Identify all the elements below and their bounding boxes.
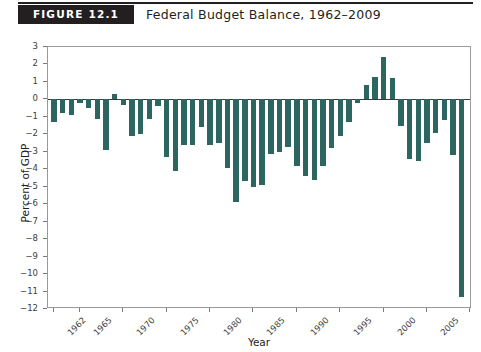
bar bbox=[381, 57, 386, 99]
figure-number-badge: FIGURE 12.1 bbox=[18, 5, 134, 24]
y-tick-label: −11 bbox=[20, 286, 38, 296]
bar bbox=[129, 99, 134, 136]
figure-header: FIGURE 12.1 Federal Budget Balance, 1962… bbox=[0, 0, 481, 30]
bar bbox=[173, 99, 178, 171]
bar bbox=[164, 99, 169, 157]
x-tick-mark bbox=[426, 308, 427, 312]
bar bbox=[355, 99, 360, 102]
x-tick-mark bbox=[383, 308, 384, 312]
y-tick-label: −12 bbox=[20, 303, 38, 313]
bar bbox=[450, 99, 455, 155]
x-tick-mark bbox=[252, 308, 253, 312]
bar bbox=[69, 99, 74, 115]
bar bbox=[138, 99, 143, 134]
bar bbox=[424, 99, 429, 143]
bar bbox=[242, 99, 247, 181]
bar bbox=[95, 99, 100, 118]
bar bbox=[147, 99, 152, 118]
bar-series bbox=[48, 47, 470, 307]
bar bbox=[320, 99, 325, 165]
bar bbox=[303, 99, 308, 176]
bar bbox=[338, 99, 343, 136]
bar bbox=[398, 99, 403, 125]
bar bbox=[346, 99, 351, 122]
x-tick-label: 1990 bbox=[308, 315, 330, 337]
x-tick-label: 1962 bbox=[65, 315, 87, 337]
y-axis-title: Percent of GDP bbox=[19, 103, 31, 263]
y-tick-label: 0 bbox=[33, 93, 38, 103]
y-tick-label: 2 bbox=[33, 58, 38, 68]
bar bbox=[294, 99, 299, 165]
header-rule bbox=[18, 2, 473, 4]
bar bbox=[433, 99, 438, 132]
x-tick-label: 1980 bbox=[221, 315, 243, 337]
bar bbox=[51, 99, 56, 122]
bar bbox=[364, 85, 369, 99]
bar bbox=[259, 99, 264, 185]
figure-title: Federal Budget Balance, 1962–2009 bbox=[146, 5, 381, 24]
bar bbox=[329, 99, 334, 148]
bar bbox=[251, 99, 256, 186]
bar bbox=[416, 99, 421, 160]
y-tick-label: −10 bbox=[20, 268, 38, 278]
x-tick-label: 1965 bbox=[91, 315, 113, 337]
y-tick-label: 3 bbox=[33, 41, 38, 51]
x-axis-title: Year bbox=[47, 336, 471, 348]
bar bbox=[112, 94, 117, 99]
x-tick-mark bbox=[296, 308, 297, 312]
x-tick-label: 1970 bbox=[135, 315, 157, 337]
bar bbox=[207, 99, 212, 144]
y-tick-label: 1 bbox=[33, 76, 38, 86]
bar bbox=[233, 99, 238, 202]
bar bbox=[268, 99, 273, 153]
bar bbox=[390, 78, 395, 99]
bar bbox=[372, 77, 377, 100]
bar bbox=[77, 99, 82, 102]
x-tick-label: 1975 bbox=[178, 315, 200, 337]
bar bbox=[285, 99, 290, 146]
bar bbox=[199, 99, 204, 127]
bar bbox=[181, 99, 186, 144]
plot-area bbox=[47, 46, 471, 308]
x-tick-label: 2005 bbox=[438, 315, 460, 337]
x-tick-mark bbox=[166, 308, 167, 312]
x-tick-mark bbox=[53, 308, 54, 312]
bar bbox=[121, 99, 126, 104]
x-tick-mark bbox=[79, 308, 80, 312]
bar bbox=[86, 99, 91, 108]
x-tick-mark bbox=[122, 308, 123, 312]
bar bbox=[277, 99, 282, 151]
bar bbox=[459, 99, 464, 296]
x-tick-mark bbox=[469, 308, 470, 312]
bar bbox=[407, 99, 412, 158]
x-tick-label: 2000 bbox=[395, 315, 417, 337]
bar bbox=[190, 99, 195, 144]
bar bbox=[442, 99, 447, 120]
x-tick-mark bbox=[339, 308, 340, 312]
bar bbox=[312, 99, 317, 179]
bar bbox=[216, 99, 221, 143]
chart-container: 3210−1−2−3−4−5−6−7−8−9−10−11−12 Percent … bbox=[0, 30, 481, 352]
x-tick-label: 1985 bbox=[265, 315, 287, 337]
bar bbox=[103, 99, 108, 150]
bar bbox=[60, 99, 65, 113]
bar bbox=[225, 99, 230, 167]
x-tick-label: 1995 bbox=[352, 315, 374, 337]
bar bbox=[155, 99, 160, 106]
x-tick-mark bbox=[209, 308, 210, 312]
